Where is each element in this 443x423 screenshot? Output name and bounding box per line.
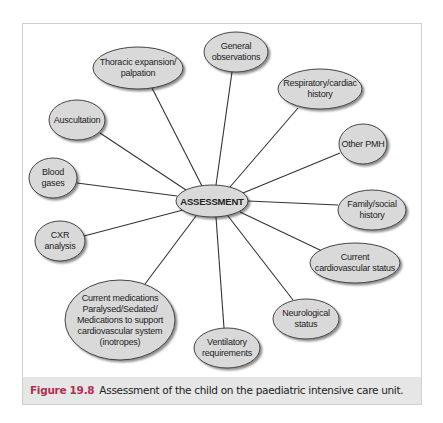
figure-caption-text: Assessment of the child on the paediatri… (99, 384, 403, 396)
edge-to-family-social-history (248, 201, 338, 205)
edge-to-neurological-status (228, 216, 293, 300)
node-label-cxr-analysis: CXRanalysis (45, 230, 76, 252)
node-label-family-social-history: Family/socialhistory (347, 199, 396, 221)
edge-to-auscultation (100, 133, 186, 190)
edge-to-thoracic-expansion (152, 88, 202, 186)
edge-to-current-cardiovascular-status (240, 212, 322, 251)
edge-to-general-observations (216, 72, 232, 185)
node-label-auscultation: Auscultation (54, 115, 101, 126)
node-label-thoracic-expansion: Thoracic expansion/palpation (100, 57, 177, 79)
node-label-other-pmh: Other PMH (341, 139, 384, 150)
node-label-current-cardiovascular-status: Currentcardiovascular status (315, 252, 395, 274)
node-label-current-medications: Current medicationsParalysed/Sedated/Med… (77, 293, 163, 348)
edge-to-blood-gases (77, 183, 177, 196)
edge-to-other-pmh (243, 153, 340, 193)
figure-caption: Figure 19.8Assessment of the child on th… (30, 384, 403, 396)
edge-to-current-medications (145, 216, 196, 284)
edge-to-cxr-analysis (84, 210, 183, 236)
node-label-respiratory-cardiac-history: Respiratory/cardiachistory (283, 78, 357, 100)
figure-number: Figure 19.8 (30, 384, 94, 396)
node-label-neurological-status: Neurologicalstatus (282, 308, 330, 330)
node-label-ventilatory-requirements: Ventilatoryrequirements (202, 337, 252, 359)
node-label-assessment-hub: ASSESSMENT (180, 196, 243, 207)
node-label-blood-gases: Bloodgases (41, 167, 64, 189)
node-label-general-observations: Generalobservations (212, 41, 261, 63)
edge-to-ventilatory-requirements (216, 217, 224, 328)
edge-to-respiratory-cardiac-history (230, 108, 298, 187)
